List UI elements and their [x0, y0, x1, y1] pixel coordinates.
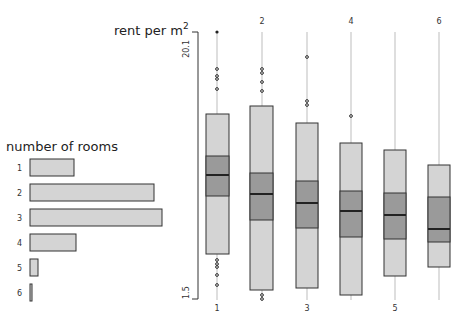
- box-label-2: 2: [259, 17, 264, 26]
- chart-canvas: number of rooms 1 2 3 4 5 6 rent per m2 …: [0, 0, 471, 323]
- box-label-4: 4: [348, 17, 353, 26]
- bar-label-1: 1: [17, 164, 22, 173]
- boxplot-4: 4: [340, 17, 362, 300]
- bar-2: [30, 184, 154, 201]
- bar-label-2: 2: [17, 189, 22, 198]
- boxplot-2: 2: [250, 17, 273, 300]
- bar-6: [30, 284, 32, 301]
- box-label-6: 6: [436, 17, 441, 26]
- box-label-5: 5: [392, 304, 397, 313]
- box-chart-title: rent per m2: [114, 21, 189, 38]
- box-label-3: 3: [304, 304, 309, 313]
- box-label-1: 1: [214, 304, 219, 313]
- bar-label-3: 3: [17, 214, 22, 223]
- bar-label-6: 6: [17, 289, 22, 298]
- bar-4: [30, 234, 76, 251]
- bar-5: [30, 259, 38, 276]
- bar-3: [30, 209, 162, 226]
- bar-1: [30, 159, 74, 176]
- y-tick-min: 1.5: [182, 286, 191, 299]
- bar-label-5: 5: [17, 264, 22, 273]
- y-tick-max: 20.1: [182, 40, 191, 58]
- boxplot-1: 1: [206, 30, 229, 313]
- room-count-bars: 1 2 3 4 5 6: [17, 159, 162, 301]
- bar-label-4: 4: [17, 239, 22, 248]
- boxplot-6: 6: [428, 17, 450, 300]
- bar-chart-title: number of rooms: [6, 139, 118, 154]
- y-axis: 20.1 1.5: [182, 32, 198, 299]
- boxplot-3: 3: [296, 32, 318, 313]
- boxplot-5: 5: [384, 32, 406, 313]
